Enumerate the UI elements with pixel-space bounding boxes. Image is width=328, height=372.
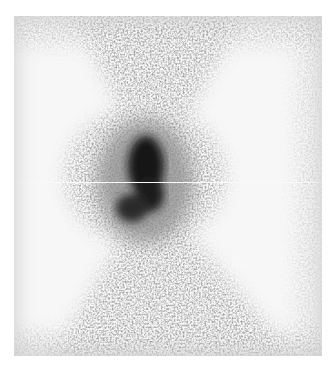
density-image	[14, 16, 322, 356]
scanline-artifact	[14, 182, 322, 183]
speckle-field	[14, 16, 322, 356]
